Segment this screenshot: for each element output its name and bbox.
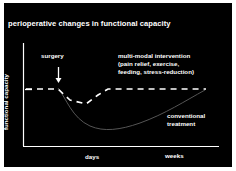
x-label-weeks: weeks	[165, 152, 184, 159]
conventional-label-line2: treatment	[167, 120, 195, 127]
surgery-arrow-icon	[56, 78, 62, 83]
intervention-label-line3: feeding, stress-reduction)	[118, 68, 194, 75]
surgery-label: surgery	[41, 52, 64, 59]
intervention-label-line1: multi-modal intervention	[118, 52, 190, 59]
capacity-chart	[0, 0, 236, 171]
x-label-days: days	[85, 153, 99, 160]
intervention-curve	[26, 89, 206, 104]
conventional-label-line1: conventional	[167, 112, 205, 119]
intervention-label-line2: (pain relief, exercise,	[118, 60, 179, 67]
